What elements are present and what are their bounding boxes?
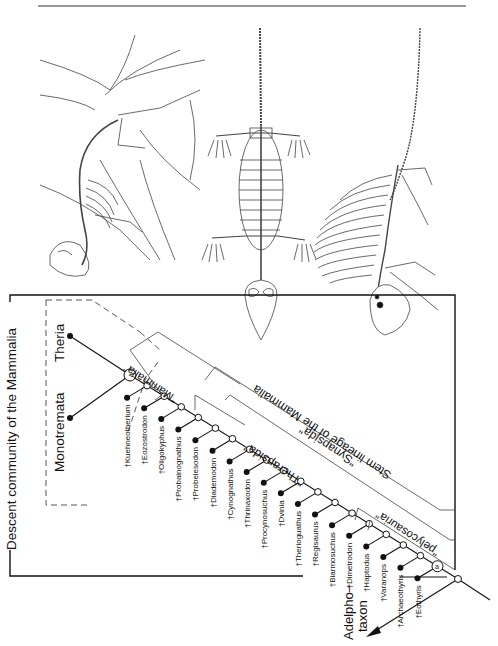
taxon-label: †Procynosuchus bbox=[260, 490, 269, 549]
tree-leaves: †Kuehneotherium†Eozostrodon†Oligokyphus†… bbox=[123, 382, 443, 628]
leaf-dot bbox=[329, 522, 335, 528]
taxon-label: †Haptodus bbox=[362, 553, 371, 592]
taxon-label: †Dvinia bbox=[277, 500, 286, 527]
leaf-dot bbox=[124, 395, 130, 401]
leaf-dot bbox=[346, 533, 352, 539]
taxon-label: †Eothyris bbox=[414, 585, 423, 618]
dimetrodon-illustration bbox=[314, 28, 438, 335]
taxon-label: †Archaeothyris bbox=[396, 575, 405, 628]
tree-node bbox=[212, 425, 219, 432]
taxon-label: †Cynognathus bbox=[226, 468, 235, 520]
taxon-label: †Biarmosuchus bbox=[328, 532, 337, 587]
tree-node bbox=[417, 552, 424, 559]
tree-node bbox=[400, 542, 407, 549]
leaf-dot bbox=[227, 458, 233, 464]
taxon-label: †Diademodon bbox=[209, 458, 218, 508]
taxon-label: †Probainognathus bbox=[174, 437, 183, 502]
leaf-dot bbox=[141, 405, 147, 411]
leaf-dot bbox=[380, 554, 386, 560]
leaf-dot-theria bbox=[67, 333, 73, 339]
tree-node bbox=[332, 499, 339, 506]
therapsid-dorsal-illustration bbox=[202, 28, 316, 340]
leaf-dot bbox=[363, 543, 369, 549]
taxon-label: †Probelesodon bbox=[191, 447, 200, 501]
early-mammal-illustration bbox=[40, 35, 205, 276]
tree-node bbox=[178, 404, 185, 411]
leaf-dot bbox=[192, 437, 198, 443]
label-theria: Theria bbox=[52, 323, 67, 362]
tree-node bbox=[315, 489, 322, 496]
label-monotremata: Monotremata bbox=[52, 392, 67, 472]
taxon-label: †Kuehneotherium bbox=[123, 404, 132, 467]
leaf-dot bbox=[295, 501, 301, 507]
root-node bbox=[455, 576, 462, 583]
leaf-dot bbox=[210, 448, 216, 454]
taxon-label: †Varanops bbox=[379, 564, 388, 602]
tree-node bbox=[383, 531, 390, 538]
leaf-dot bbox=[261, 480, 267, 486]
leaf-dot bbox=[278, 490, 284, 496]
taxon-label: †Dimetrodon bbox=[345, 543, 354, 589]
frame-title: Descent community of the Mammalia bbox=[4, 327, 19, 550]
tree-node bbox=[195, 414, 202, 421]
adelphotaxon-label-line1: Adelpho– bbox=[341, 584, 356, 640]
taxon-label: †Oligokyphus bbox=[157, 426, 166, 474]
leaf-dot bbox=[244, 469, 250, 475]
base-node-symbol: a bbox=[435, 563, 439, 570]
leaf-dot bbox=[312, 512, 318, 518]
taxon-label: †Regisaurus bbox=[311, 522, 320, 567]
leaf-dot bbox=[158, 416, 164, 422]
leaf-dot bbox=[397, 565, 403, 571]
leaf-dot-monotremata bbox=[67, 415, 73, 421]
tree-node bbox=[229, 435, 236, 442]
tree-node bbox=[349, 510, 356, 517]
leaf-dot bbox=[415, 575, 421, 581]
bracket-label-mammalia: "Mammalia" bbox=[121, 362, 179, 405]
taxon-label: †Eozostrodon bbox=[140, 415, 149, 464]
taxon-label: †Thrinaxodon bbox=[243, 479, 252, 528]
taxon-label: †Therioguathus bbox=[294, 511, 303, 567]
adelphotaxon-label-line2: taxon bbox=[355, 600, 370, 632]
leaf-dot bbox=[175, 427, 181, 433]
figure-canvas: Descent community of the Mammalia Monotr… bbox=[0, 0, 498, 646]
